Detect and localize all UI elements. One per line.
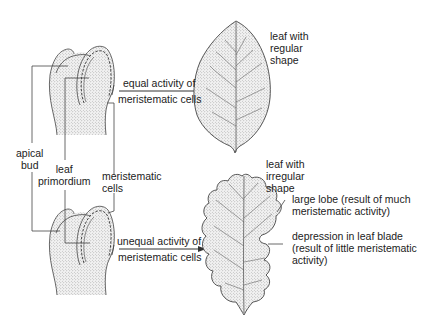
top-arrow-label: equal activity of xyxy=(123,77,195,89)
top-arrow-label-line2: meristematic cells xyxy=(118,93,201,105)
large-lobe-label-line1: large lobe (result of much xyxy=(292,193,410,205)
depression-label-line3: activity) xyxy=(292,254,417,266)
top-arrow-label-line1: equal activity of xyxy=(123,77,195,89)
apical-bud-label-line1: apical xyxy=(16,147,43,159)
bottom-arrow-label-2: meristematic cells xyxy=(118,251,201,263)
irregular-leaf-label-line2: irregular xyxy=(266,170,305,182)
regular-leaf-label: leaf with regular shape xyxy=(270,30,309,66)
meristematic-cells-label-line2: cells xyxy=(102,182,162,194)
bottom-arrow-label: unequal activity of xyxy=(117,235,201,247)
irregular-leaf-label: leaf with irregular shape xyxy=(266,158,305,194)
depression-label-line1: depression in leaf blade xyxy=(292,230,417,242)
leaf-primordium-label-line1: leaf xyxy=(38,163,91,175)
large-lobe-label: large lobe (result of much meristematic … xyxy=(292,193,410,217)
bottom-apical-bud xyxy=(49,206,114,295)
top-arrow-label-2: meristematic cells xyxy=(118,93,201,105)
irregular-leaf xyxy=(202,174,281,315)
regular-leaf-label-line2: regular xyxy=(270,42,309,54)
meristematic-cells-label-line1: meristematic xyxy=(102,170,162,182)
depression-label: depression in leaf blade (result of litt… xyxy=(292,230,417,266)
meristematic-cells-label: meristematic cells xyxy=(102,170,162,194)
top-apical-bud xyxy=(49,46,114,135)
regular-leaf xyxy=(194,21,270,153)
leaf-development-diagram: equal activity of meristematic cells lea… xyxy=(0,0,428,329)
bottom-arrow-label-line2: meristematic cells xyxy=(118,251,201,263)
irregular-leaf-label-line1: leaf with xyxy=(266,158,305,170)
leaf-primordium-label-line2: primordium xyxy=(38,175,91,187)
leaf-primordium-label: leaf primordium xyxy=(38,163,91,187)
regular-leaf-label-line1: leaf with xyxy=(270,30,309,42)
regular-leaf-label-line3: shape xyxy=(270,54,309,66)
large-lobe-label-line2: meristematic activity) xyxy=(292,205,410,217)
depression-label-line2: (result of little meristematic xyxy=(292,242,417,254)
bottom-arrow-label-line1: unequal activity of xyxy=(117,235,201,247)
